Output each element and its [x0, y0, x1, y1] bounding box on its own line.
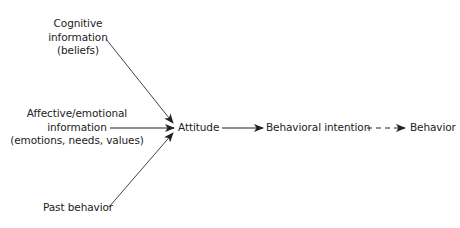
attitude-node: Attitude — [178, 121, 219, 135]
behavior-node: Behavior — [410, 121, 456, 135]
affective-line-3: (emotions, needs, values) — [2, 134, 152, 148]
affective-line-1: Affective/emotional — [2, 107, 152, 121]
cognitive-information-label: Cognitive information (beliefs) — [38, 17, 118, 58]
affective-line-2: information — [2, 121, 152, 135]
behavioral-intention-node: Behavioral intention — [266, 121, 370, 135]
affective-information-label: Affective/emotional information (emotion… — [2, 107, 152, 148]
cognitive-line-1: Cognitive — [38, 17, 118, 31]
past-behavior-label: Past behavior — [43, 201, 113, 215]
cognitive-line-3: (beliefs) — [38, 44, 118, 58]
past-behavior-line-1: Past behavior — [43, 201, 113, 215]
cognitive-line-2: information — [38, 31, 118, 45]
